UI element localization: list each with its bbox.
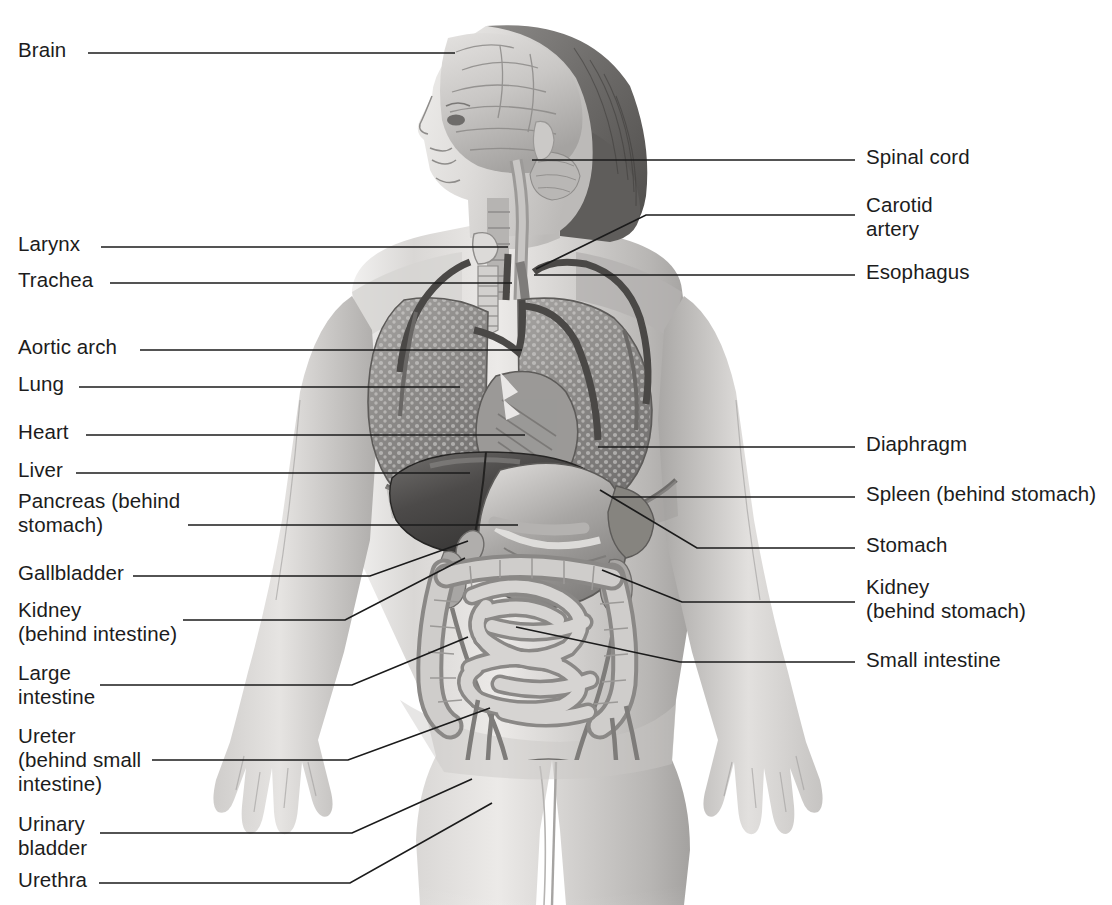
label-pancreas: Pancreas (behind stomach) [18,489,180,537]
label-urethra: Urethra [18,868,87,892]
label-heart: Heart [18,420,69,444]
label-esophagus: Esophagus [866,260,969,284]
label-ureter: Ureter (behind small intestine) [18,724,141,796]
label-large-intestine: Large intestine [18,661,95,709]
label-spleen: Spleen (behind stomach) [866,482,1096,506]
label-trachea: Trachea [18,268,93,292]
label-diaphragm: Diaphragm [866,432,967,456]
label-liver: Liver [18,458,63,482]
label-spinal-cord: Spinal cord [866,145,970,169]
label-larynx: Larynx [18,232,80,256]
label-kidney-right: Kidney (behind stomach) [866,575,1026,623]
label-gallbladder: Gallbladder [18,561,124,585]
label-lung: Lung [18,372,64,396]
label-aortic-arch: Aortic arch [18,335,117,359]
label-small-intestine: Small intestine [866,648,1001,672]
label-kidney-left: Kidney (behind intestine) [18,598,177,646]
label-carotid-artery: Carotid artery [866,193,933,241]
anatomical-figure: Brain Larynx Trachea Aortic arch Lung He… [0,0,1112,905]
label-brain: Brain [18,38,66,62]
label-stomach: Stomach [866,533,948,557]
label-urinary-bladder: Urinary bladder [18,812,87,860]
